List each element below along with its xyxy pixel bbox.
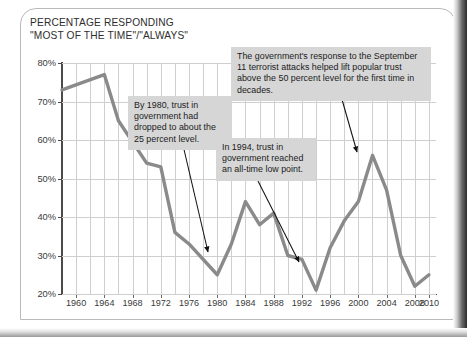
x-axis-tick-label: 1984 [235,298,255,308]
y-axis-tick-label: 40% [26,212,56,222]
x-axis-tick-label: 1960 [66,298,86,308]
annotation-callout-2001: The government's response to the Septemb… [231,47,431,101]
x-axis-tick-label: 2000 [348,298,368,308]
y-axis-tick-label: 60% [26,135,56,145]
x-axis-tick-label: 1964 [94,298,114,308]
x-axis-tick-label: 1968 [122,298,142,308]
x-axis-tick-label: 1996 [320,298,340,308]
x-axis-tick-label: 2010 [419,298,439,308]
figure-container: PERCENTAGE RESPONDING "MOST OF THE TIME"… [0,0,467,337]
y-axis-tick-label: 70% [26,97,56,107]
page-edge-right [453,0,467,337]
x-axis-tick-label: 1988 [264,298,284,308]
gridline-horizontal [62,294,436,295]
x-axis-tick-label: 1976 [179,298,199,308]
y-axis-tick-label: 80% [26,58,56,68]
x-axis-tick-label: 1972 [151,298,171,308]
y-axis-tick-label: 50% [26,174,56,184]
trust-line-series [62,75,429,291]
annotation-callout-1994: In 1994, trust in government reached an … [216,138,316,181]
x-axis-tick-label: 1992 [292,298,312,308]
chart-title: PERCENTAGE RESPONDING "MOST OF THE TIME"… [30,16,188,42]
x-axis-tick-label: 2004 [376,298,396,308]
y-axis-tick-label: 30% [26,251,56,261]
page-edge-bottom [0,328,467,337]
y-axis-tick-label: 20% [26,289,56,299]
x-axis-tick-label: 1980 [207,298,227,308]
